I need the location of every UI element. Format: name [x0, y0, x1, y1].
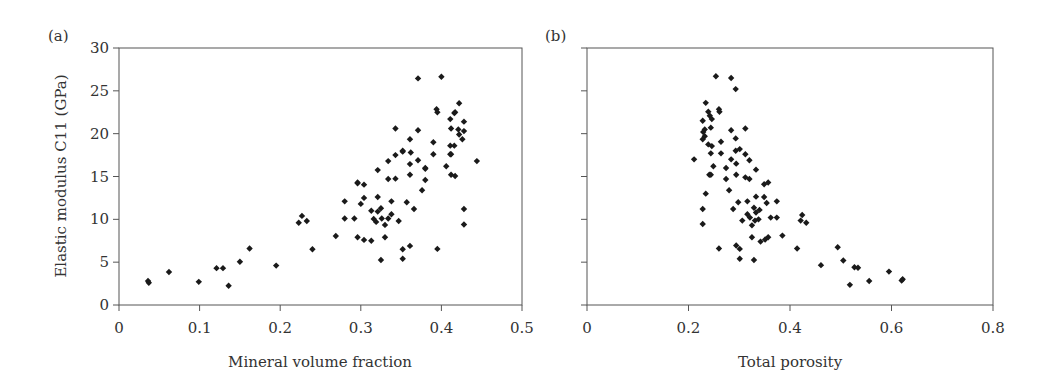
x-tick-label: 0.8: [981, 319, 1005, 337]
panel-b-total-porosity: (b) 00.20.40.60.8 Total porosity: [545, 27, 1005, 371]
data-point: [447, 116, 453, 122]
data-point: [225, 283, 231, 289]
data-point: [309, 246, 315, 252]
data-point: [382, 222, 388, 228]
data-point: [375, 167, 381, 173]
data-point: [407, 243, 413, 249]
data-point: [378, 257, 384, 263]
plot-frame: [119, 48, 522, 305]
data-point: [341, 198, 347, 204]
data-point: [799, 212, 805, 218]
panel-a-axes: 05101520253000.10.20.30.40.5: [90, 39, 534, 337]
data-point: [732, 135, 738, 141]
data-point: [407, 172, 413, 178]
y-tick-label: 10: [90, 210, 109, 228]
x-tick-label: 0.6: [880, 319, 904, 337]
x-tick-label: 0: [114, 319, 124, 337]
data-point: [415, 75, 421, 81]
data-point: [333, 233, 339, 239]
data-point: [728, 75, 734, 81]
data-point: [237, 259, 243, 265]
data-point: [749, 234, 755, 240]
y-tick-label: 25: [90, 82, 109, 100]
data-point: [392, 125, 398, 131]
data-point: [273, 262, 279, 268]
data-point: [461, 118, 467, 124]
panel-a-y-axis-label: Elastic modulus C11 (GPa): [52, 74, 70, 277]
x-tick-label: 0.3: [349, 319, 373, 337]
data-point: [354, 234, 360, 240]
data-point: [434, 246, 440, 252]
data-point: [392, 152, 398, 158]
data-point: [415, 157, 421, 163]
data-point: [361, 195, 367, 201]
data-point: [700, 221, 706, 227]
y-tick-label: 30: [90, 39, 109, 57]
data-point: [718, 150, 724, 156]
data-point: [847, 282, 853, 288]
data-point: [304, 218, 310, 224]
data-point: [407, 161, 413, 167]
data-point: [866, 278, 872, 284]
data-point: [691, 156, 697, 162]
x-tick-label: 0.4: [778, 319, 802, 337]
data-point: [351, 215, 357, 221]
data-point: [422, 166, 428, 172]
data-point: [415, 127, 421, 133]
x-tick-label: 0.1: [188, 319, 212, 337]
panel-a-x-axis-label: Mineral volume fraction: [228, 353, 412, 371]
x-tick-label: 0.4: [429, 319, 453, 337]
data-point: [718, 139, 724, 145]
data-point: [703, 190, 709, 196]
data-point: [375, 194, 381, 200]
data-point: [443, 163, 449, 169]
data-point: [803, 220, 809, 226]
panel-a-data-points: [145, 73, 480, 288]
data-point: [742, 125, 748, 131]
panel-b-x-axis-label: Total porosity: [738, 353, 843, 371]
data-point: [768, 214, 774, 220]
data-point: [751, 257, 757, 263]
data-point: [886, 268, 892, 274]
data-point: [392, 175, 398, 181]
panel-b-label: (b): [545, 27, 566, 45]
data-point: [361, 237, 367, 243]
y-tick-label: 15: [90, 168, 109, 186]
data-point: [797, 217, 803, 223]
data-point: [196, 279, 202, 285]
data-point: [400, 246, 406, 252]
data-point: [700, 206, 706, 212]
data-point: [835, 244, 841, 250]
panel-b-axes: 00.20.40.60.8: [581, 48, 1005, 337]
data-point: [455, 126, 461, 132]
data-point: [818, 262, 824, 268]
data-point: [774, 198, 780, 204]
panel-a-label: (a): [48, 27, 69, 45]
data-point: [368, 208, 374, 214]
data-point: [732, 86, 738, 92]
data-point: [728, 127, 734, 133]
data-point: [354, 180, 360, 186]
data-point: [728, 156, 734, 162]
data-point: [404, 199, 410, 205]
data-point: [461, 221, 467, 227]
data-point: [794, 245, 800, 251]
data-point: [840, 257, 846, 263]
data-point: [220, 265, 226, 271]
data-point: [411, 206, 417, 212]
data-point: [407, 136, 413, 142]
data-point: [742, 151, 748, 157]
data-point: [430, 139, 436, 145]
data-point: [379, 215, 385, 221]
data-point: [456, 131, 462, 137]
data-point: [395, 218, 401, 224]
data-point: [382, 234, 388, 240]
data-point: [708, 124, 714, 130]
panel-b-data-points: [691, 73, 906, 288]
data-point: [744, 198, 750, 204]
x-tick-label: 0.2: [677, 319, 701, 337]
data-point: [726, 187, 732, 193]
figure: (a) 05101520253000.10.20.30.40.5 Mineral…: [0, 0, 1047, 391]
data-point: [296, 220, 302, 226]
data-point: [400, 256, 406, 262]
